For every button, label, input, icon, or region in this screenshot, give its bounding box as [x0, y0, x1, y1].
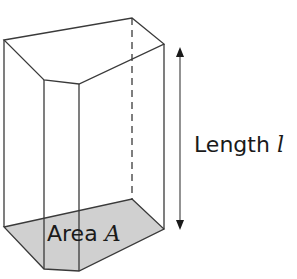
length-text: Length	[194, 132, 270, 157]
area-symbol: A	[105, 221, 121, 246]
area-label: Area A	[47, 221, 121, 246]
length-symbol: l	[277, 132, 284, 157]
arrow-up-icon	[176, 47, 184, 57]
arrow-down-icon	[176, 220, 184, 230]
length-label: Length l	[194, 132, 284, 157]
top-face	[4, 18, 164, 84]
area-text: Area	[47, 221, 98, 246]
length-arrow	[176, 47, 184, 230]
